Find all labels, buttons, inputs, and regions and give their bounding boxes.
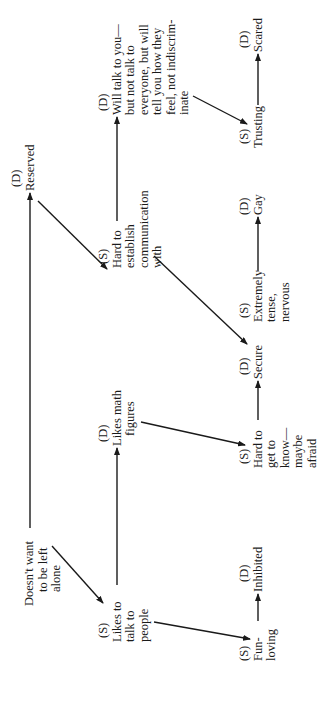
node-hard-know: (S) Hard to get to know— maybe afraid	[238, 428, 319, 468]
node-line: loving	[265, 629, 279, 661]
node-line: Inhibited	[252, 547, 266, 592]
node-tag-s: (S)	[238, 629, 252, 661]
node-line: Trusting	[252, 106, 266, 148]
node-line: nervous	[279, 270, 293, 322]
node-reserved: (D) Reserved	[10, 144, 37, 191]
node-line: to be left	[37, 541, 51, 606]
node-tag-d: (D)	[10, 144, 24, 191]
node-line: Extremely	[252, 270, 266, 322]
node-line: Secure	[252, 345, 266, 379]
node-will-talk: (D) Will talk to you— but not talk to ev…	[97, 20, 192, 115]
node-line: tense,	[265, 270, 279, 322]
node-line: but not talk to	[124, 20, 138, 115]
node-likes-math: (D) Likes math figures	[97, 390, 138, 446]
node-tag-d: (D)	[97, 390, 111, 446]
node-line: maybe	[292, 428, 306, 468]
node-tag-s: (S)	[238, 270, 252, 322]
node-line: Hard to	[252, 428, 266, 468]
node-tag-d: (D)	[238, 547, 252, 592]
edge-likes-math-hard-know	[141, 422, 245, 445]
node-line: establish	[124, 190, 138, 268]
node-root: Doesn't want to be left alone	[23, 541, 64, 606]
node-line: Fun-	[252, 629, 266, 661]
node-tag-d: (D)	[238, 194, 252, 215]
node-line: figures	[124, 390, 138, 446]
node-tag-s: (S)	[97, 190, 111, 268]
node-line: inate	[178, 20, 192, 115]
node-tag-s: (S)	[238, 428, 252, 468]
node-line: Hard to	[111, 190, 125, 268]
node-scared: (D) Scared	[238, 18, 265, 52]
node-fun-loving: (S) Fun- loving	[238, 629, 279, 661]
node-gay: (D) Gay	[238, 194, 265, 215]
node-line: afraid	[306, 428, 320, 468]
node-line: Will talk to you—	[111, 20, 125, 115]
node-line: feel, not indiscrim-	[165, 20, 179, 115]
edge-likes-talk-fun-loving	[154, 622, 250, 639]
node-line: everyone, but will	[138, 20, 152, 115]
node-line: Gay	[252, 194, 266, 215]
node-tag-d: (D)	[97, 20, 111, 115]
node-secure: (D) Secure	[238, 345, 265, 379]
edge-hard-comm-tense	[154, 256, 247, 344]
node-line: Likes math	[111, 390, 125, 446]
node-inhibited: (D) Inhibited	[238, 547, 265, 592]
node-line: get to	[265, 428, 279, 468]
node-line: tell you how they	[151, 20, 165, 115]
node-line: know—	[279, 428, 293, 468]
node-tag-d: (D)	[238, 18, 252, 52]
node-line: with	[151, 190, 165, 268]
flow-diagram: Doesn't want to be left alone (D) Reserv…	[0, 0, 334, 706]
node-line: Likes to	[111, 601, 125, 642]
node-tense: (S) Extremely tense, nervous	[238, 270, 292, 322]
node-hard-comm: (S) Hard to establish communication with	[97, 190, 165, 268]
node-tag-s: (S)	[238, 106, 252, 148]
node-line: Doesn't want	[23, 541, 37, 606]
node-line: alone	[50, 541, 64, 606]
node-tag-s: (S)	[97, 601, 111, 642]
node-line: people	[138, 601, 152, 642]
node-tag-d: (D)	[238, 345, 252, 379]
node-trusting: (S) Trusting	[238, 106, 265, 148]
node-likes-talk: (S) Likes to talk to people	[97, 601, 151, 642]
node-line: talk to	[124, 601, 138, 642]
node-line: Scared	[252, 18, 266, 52]
node-line: Reserved	[24, 144, 38, 191]
node-line: communication	[138, 190, 152, 268]
